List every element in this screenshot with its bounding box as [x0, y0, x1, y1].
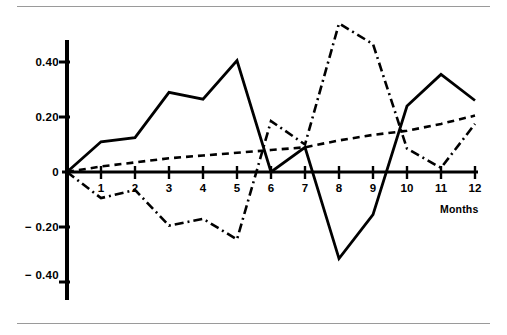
- y-tick-label-neg-0-40: − 0.40: [8, 269, 59, 281]
- y-tick-label-0: 0: [13, 166, 59, 178]
- x-tick-label-6: 6: [259, 182, 283, 194]
- x-tick-label-3: 3: [157, 182, 181, 194]
- x-tick-label-1: 1: [89, 182, 113, 194]
- x-tick-label-11: 11: [429, 182, 453, 194]
- series-solid-path: [67, 61, 475, 259]
- x-tick-label-8: 8: [327, 182, 351, 194]
- y-tick-label-neg-0-20: − 0.20: [8, 221, 59, 233]
- x-tick-label-7: 7: [293, 182, 317, 194]
- x-tick-label-5: 5: [225, 182, 249, 194]
- y-tick-label-0-40: 0.40: [13, 56, 59, 68]
- x-tick-label-12: 12: [463, 182, 487, 194]
- y-tick-label-0-20: 0.20: [13, 111, 59, 123]
- x-axis-title: Months: [440, 203, 479, 215]
- x-tick-label-10: 10: [395, 182, 419, 194]
- series-dashed-trend-path: [67, 116, 475, 172]
- series-dash-dot-path: [67, 24, 475, 240]
- series-group: [67, 24, 475, 259]
- x-tick-label-2: 2: [123, 182, 147, 194]
- plot-area: [0, 0, 507, 335]
- axes-group: [59, 40, 478, 300]
- x-tick-label-4: 4: [191, 182, 215, 194]
- x-tick-label-9: 9: [361, 182, 385, 194]
- chart-figure: 0.40 0.20 0 − 0.20 − 0.40 1 2 3 4 5 6 7 …: [0, 0, 507, 335]
